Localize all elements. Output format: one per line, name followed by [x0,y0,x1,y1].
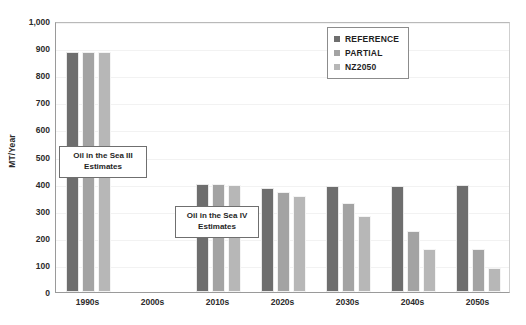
annotation-line-1: Oil in the Sea III [65,151,141,162]
y-axis-tick-label: 0 [10,289,50,298]
y-axis-tick-label: 300 [10,207,50,216]
bar-partial[interactable] [212,184,225,292]
legend-swatch-icon [334,36,340,42]
y-axis-tick-label: 500 [10,153,50,162]
y-axis-tick-label: 800 [10,72,50,81]
annotation-line-2: Estimates [181,222,253,233]
y-axis-tick-label: 700 [10,99,50,108]
x-axis-tick-label: 2040s [378,297,448,307]
y-axis-tick-label: 900 [10,45,50,54]
bar-reference[interactable] [261,188,274,292]
legend-swatch-icon [334,64,340,70]
x-axis-tick-label: 2010s [183,297,253,307]
x-axis-tick-labels: 1990s2000s2010s2020s2030s2040s2050s [55,297,510,317]
annotation-line-1: Oil in the Sea IV [181,211,253,222]
annotation-oil-in-the-sea-3: Oil in the Sea III Estimates [59,146,147,178]
x-axis-tick-label: 2020s [248,297,318,307]
legend-label: REFERENCE [345,34,399,44]
bar-nz2050[interactable] [358,216,371,292]
annotation-line-2: Estimates [65,162,141,173]
bar-group [446,23,511,292]
y-axis-tick-label: 600 [10,126,50,135]
bar-reference[interactable] [326,186,339,292]
annotation-oil-in-the-sea-4: Oil in the Sea IV Estimates [175,206,259,238]
bar-group [251,23,316,292]
bar-reference[interactable] [391,186,404,292]
bar-chart: MT/Year 1,000900800700600500400300200100… [0,0,526,325]
y-axis-tick-label: 100 [10,262,50,271]
y-axis-tick-labels: 1,0009008007006005004003002001000 [0,22,50,293]
x-axis-tick-label: 2050s [443,297,513,307]
bar-partial[interactable] [277,192,290,292]
bar-reference[interactable] [196,184,209,292]
legend-label: NZ2050 [345,62,376,72]
bar-nz2050[interactable] [423,249,436,292]
x-axis-tick-label: 2030s [313,297,383,307]
bar-nz2050[interactable] [488,268,501,292]
y-axis-tick-label: 200 [10,235,50,244]
bar-reference[interactable] [456,185,469,292]
legend-item[interactable]: NZ2050 [334,60,399,74]
bar-partial[interactable] [407,231,420,292]
x-axis-tick-label: 1990s [53,297,123,307]
legend-swatch-icon [334,50,340,56]
x-axis-tick-label: 2000s [118,297,188,307]
y-axis-tick-label: 1,000 [10,18,50,27]
y-axis-tick-label: 400 [10,180,50,189]
bar-group [186,23,251,292]
bar-nz2050[interactable] [228,185,241,292]
legend-label: PARTIAL [345,48,383,58]
bar-nz2050[interactable] [293,196,306,292]
bar-partial[interactable] [342,203,355,292]
legend-item[interactable]: REFERENCE [334,32,399,46]
bar-partial[interactable] [472,249,485,292]
chart-legend: REFERENCEPARTIALNZ2050 [327,27,409,79]
legend-item[interactable]: PARTIAL [334,46,399,60]
